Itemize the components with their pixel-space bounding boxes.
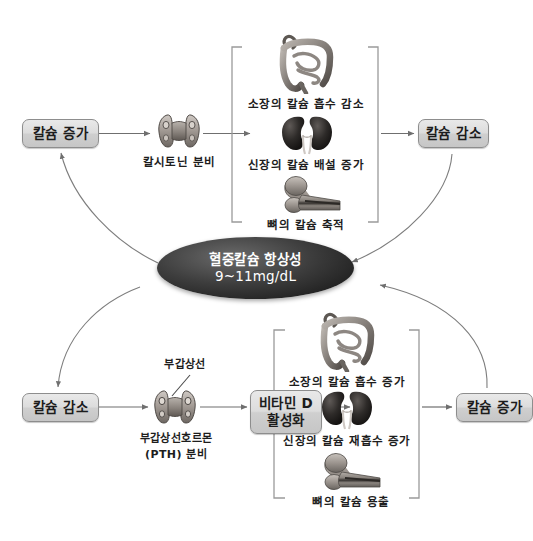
hub-range: 9~11mg/dL	[215, 268, 296, 285]
lower-trigger-box[interactable]: 칼슘 감소	[22, 393, 99, 422]
thyroid-gland-caption: 칼시토닌 분비	[129, 155, 229, 169]
upper-result-label: 칼슘 감소	[426, 125, 481, 142]
upper-trigger-label: 칼슘 증가	[33, 125, 88, 142]
hub-title: 혈중칼슘 항상성	[209, 251, 302, 267]
lower-trigger-label: 칼슘 감소	[33, 399, 88, 416]
upper-trigger-box[interactable]: 칼슘 증가	[22, 119, 99, 148]
vitamin-d-label-line2: 활성화	[267, 412, 305, 429]
curve-lower-increase-to-hub	[380, 285, 487, 388]
lower-result-label: 칼슘 증가	[467, 399, 522, 416]
upper-effect-label-3: 뼈의 칼슘 축적	[251, 218, 361, 232]
parathyroid-pointer-label: 부갑상선	[155, 358, 215, 372]
lower-effect-label-2: 신장의 칼슘 재흡수 증가	[270, 434, 424, 448]
upper-kidney-icon	[279, 113, 335, 155]
lower-intestine-icon	[313, 310, 381, 372]
parathyroid-caption-line2: (PTH) 분비	[118, 448, 234, 462]
lower-result-box[interactable]: 칼슘 증가	[456, 393, 533, 422]
curve-hub-to-upper-increase	[61, 153, 158, 263]
parathyroid-caption-line1: 부갑상선호르몬	[118, 432, 234, 446]
lower-right-bracket	[409, 330, 419, 498]
upper-intestine-icon	[272, 32, 340, 94]
vitamin-d-label-line1: 비타민 D	[259, 395, 313, 412]
vitamin-d-box[interactable]: 비타민 D 활성화	[250, 390, 322, 434]
parathyroid-gland-icon	[150, 386, 200, 428]
thyroid-gland-icon	[154, 111, 204, 151]
homeostasis-hub: 혈중칼슘 항상성 9~11mg/dL	[157, 237, 354, 299]
upper-right-bracket	[368, 47, 378, 222]
lower-effect-label-3: 뼈의 칼슘 용출	[296, 495, 406, 509]
upper-left-bracket	[232, 47, 242, 222]
upper-effect-label-1: 소장의 칼슘 흡수 감소	[236, 97, 376, 111]
upper-effect-label-2: 신장의 칼슘 배설 증가	[236, 158, 376, 172]
lower-bone-icon	[320, 452, 382, 492]
curve-hub-to-lower-decrease	[58, 287, 140, 387]
upper-bone-icon	[280, 175, 342, 215]
lower-kidney-icon	[319, 388, 375, 430]
upper-result-box[interactable]: 칼슘 감소	[418, 119, 489, 148]
